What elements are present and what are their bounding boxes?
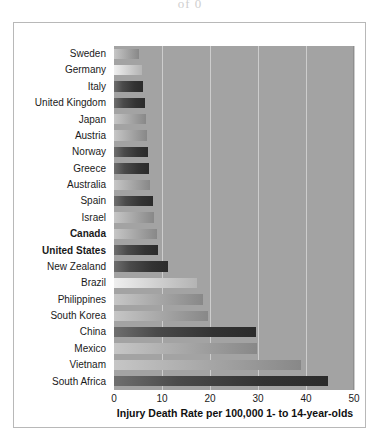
bar [114,327,256,337]
bar [114,49,139,59]
bar [114,360,301,370]
x-tick-label: 0 [111,393,117,404]
bar-row [114,193,353,209]
x-tick-label: 50 [348,393,359,404]
category-label: Italy [14,79,110,95]
category-label: Australia [14,177,110,193]
bar-row [114,292,353,308]
bar [114,376,328,386]
category-label: Norway [14,144,110,160]
bar-row [114,243,353,259]
gridline-50 [354,46,355,390]
x-tick-label: 20 [204,393,215,404]
bar [114,147,148,157]
bar [114,196,153,206]
category-label: Sweden [14,46,110,62]
bar-row [114,341,353,357]
bar [114,311,208,321]
bar-row [114,275,353,291]
bar-row [114,144,353,160]
top-cropped-text: of 0 [0,0,380,11]
category-label: Japan [14,112,110,128]
category-label: New Zealand [14,259,110,275]
category-label: Mexico [14,341,110,357]
bar [114,229,157,239]
category-label: South Africa [14,374,110,390]
x-axis-tick-labels: 01020304050 [114,393,355,407]
bar [114,163,149,173]
bar-row [114,128,353,144]
bar-row [114,357,353,373]
bar-row [114,46,353,62]
bar [114,65,142,75]
bar-series [114,46,353,390]
bar-row [114,95,353,111]
x-tick-label: 10 [156,393,167,404]
category-label: Philippines [14,292,110,308]
category-label: South Korea [14,308,110,324]
bar [114,261,168,271]
bar [114,130,147,140]
category-label: United Kingdom [14,95,110,111]
bar-row [114,112,353,128]
bar [114,343,257,353]
bar [114,294,203,304]
category-label: Germany [14,62,110,78]
plot-panel [114,46,354,390]
bar-chart: SwedenGermanyItalyUnited KingdomJapanAus… [14,23,365,427]
category-label: China [14,324,110,340]
category-label: Vietnam [14,357,110,373]
bar-row [114,177,353,193]
bar [114,114,146,124]
bar [114,81,143,91]
bar [114,98,145,108]
x-axis-title: Injury Death Rate per 100,000 1- to 14-y… [104,407,366,419]
x-tick-label: 40 [300,393,311,404]
category-label: United States [14,243,110,259]
bar [114,278,197,288]
category-axis-labels: SwedenGermanyItalyUnited KingdomJapanAus… [14,46,110,390]
category-label: Greece [14,161,110,177]
bar-row [114,324,353,340]
category-label: Spain [14,193,110,209]
figure-frame: SwedenGermanyItalyUnited KingdomJapanAus… [13,22,366,428]
bar [114,245,158,255]
bar [114,212,154,222]
bar-row [114,226,353,242]
bar-row [114,79,353,95]
bar-row [114,161,353,177]
bar-row [114,374,353,390]
bar [114,180,150,190]
x-tick-label: 30 [252,393,263,404]
category-label: Brazil [14,275,110,291]
category-label: Austria [14,128,110,144]
category-label: Canada [14,226,110,242]
bar-row [114,259,353,275]
bar-row [114,62,353,78]
bar-row [114,308,353,324]
bar-row [114,210,353,226]
category-label: Israel [14,210,110,226]
